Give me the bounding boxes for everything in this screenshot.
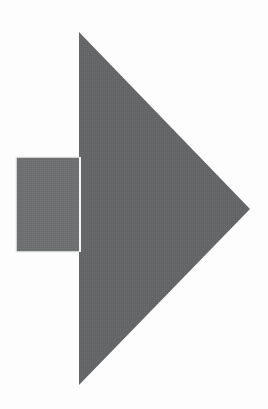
arrow-tail-rectangle <box>16 157 80 252</box>
image-canvas <box>0 0 268 409</box>
arrow-glyph <box>0 0 268 409</box>
tail-head-gap <box>79 157 81 252</box>
